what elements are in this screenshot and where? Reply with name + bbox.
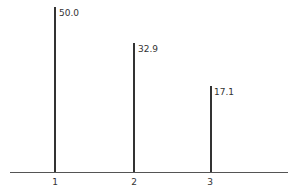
x-tick-label-2: 2 xyxy=(124,177,144,187)
bar-3 xyxy=(210,86,212,172)
x-axis-line xyxy=(10,172,288,173)
bar-1-value-label: 50.0 xyxy=(59,8,79,18)
bar-2-value-label: 32.9 xyxy=(138,44,158,54)
bar-1 xyxy=(54,7,56,172)
bar-2 xyxy=(133,43,135,172)
x-tick-label-1: 1 xyxy=(45,177,65,187)
x-tick-label-3: 3 xyxy=(200,177,220,187)
bar-3-value-label: 17.1 xyxy=(214,87,234,97)
